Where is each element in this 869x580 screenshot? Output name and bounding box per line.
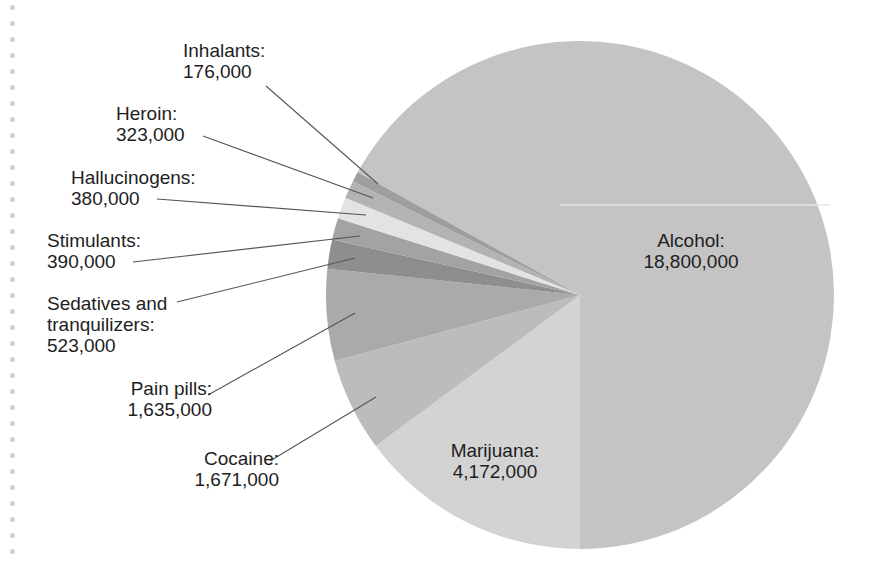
leader-inhalants [266,86,378,184]
leader-heroin [203,136,373,198]
label-value: 4,172,000 [440,461,550,482]
label-value: 323,000 [116,124,185,145]
label-name: Marijuana: [440,440,550,461]
label-value: 523,000 [47,335,167,356]
label-name: Pain pills: [116,378,212,399]
leader-stimulants [133,236,360,262]
label-value: 1,635,000 [116,399,212,420]
pie-slices [326,41,834,549]
label-sedatives: Sedatives and tranquilizers: 523,000 [47,293,167,356]
label-name: Cocaine: [183,448,279,469]
label-value: 390,000 [47,251,141,272]
label-name: Inhalants: [183,40,265,61]
label-value: 380,000 [71,188,196,209]
label-stimulants: Stimulants: 390,000 [47,230,141,272]
label-name: Hallucinogens: [71,167,196,188]
label-marijuana: Marijuana: 4,172,000 [440,440,550,482]
label-heroin: Heroin: 323,000 [116,103,185,145]
label-inhalants: Inhalants: 176,000 [183,40,265,82]
pie-chart [0,0,869,580]
label-value: 1,671,000 [183,469,279,490]
label-pain-pills: Pain pills: 1,635,000 [116,378,212,420]
label-name: Sedatives and [47,293,167,314]
leader-cocaine [270,397,376,461]
label-value: 176,000 [183,61,265,82]
label-cocaine: Cocaine: 1,671,000 [183,448,279,490]
label-value: 18,800,000 [636,251,746,272]
label-name: Stimulants: [47,230,141,251]
label-alcohol: Alcohol: 18,800,000 [636,230,746,272]
label-name: tranquilizers: [47,314,167,335]
label-hallucinogens: Hallucinogens: 380,000 [71,167,196,209]
label-name: Alcohol: [636,230,746,251]
label-name: Heroin: [116,103,185,124]
